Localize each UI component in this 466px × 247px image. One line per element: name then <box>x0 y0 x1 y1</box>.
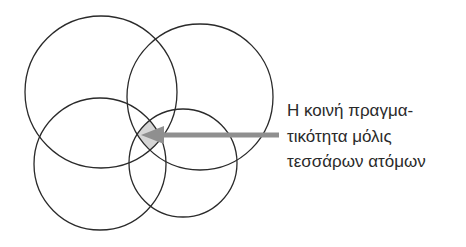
annotation-label: Η κοινή πραγμα- τικότητα μόλις τεσσάρων … <box>287 98 426 175</box>
annotation-line-2: τικότητα μόλις <box>287 124 426 150</box>
annotation-line-3: τεσσάρων ατόμων <box>287 149 426 175</box>
annotation-line-1: Η κοινή πραγμα- <box>287 98 426 124</box>
circle-bottom-left <box>34 98 166 230</box>
circle-bottom-right <box>129 109 237 217</box>
